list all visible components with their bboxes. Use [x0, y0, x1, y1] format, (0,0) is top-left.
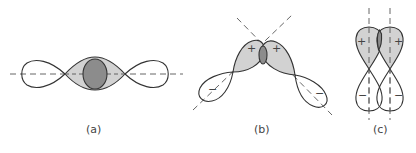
sign-minus-b-left: − [208, 83, 217, 96]
sign-minus-c-left: − [358, 89, 367, 102]
sign-plus-c-left: + [357, 35, 366, 48]
panel-label-a: (a) [86, 123, 101, 136]
overlap-region-a [83, 59, 107, 89]
panel-a: (a) [10, 57, 183, 136]
orbital-overlap-diagram: (a) + + − − (b) + + − − (c) [0, 0, 416, 153]
sign-plus-b-right: + [272, 42, 281, 55]
sign-plus-b-left: + [247, 42, 256, 55]
sign-minus-b-right: − [315, 87, 324, 100]
panel-label-c: (c) [373, 123, 388, 136]
overlap-region-b [259, 46, 267, 64]
sign-plus-c-right: + [394, 35, 403, 48]
sign-minus-c-right: − [394, 89, 403, 102]
panel-c: + + − − (c) [356, 8, 403, 136]
panel-b: + + − − (b) [193, 15, 332, 136]
panel-label-b: (b) [254, 123, 270, 136]
